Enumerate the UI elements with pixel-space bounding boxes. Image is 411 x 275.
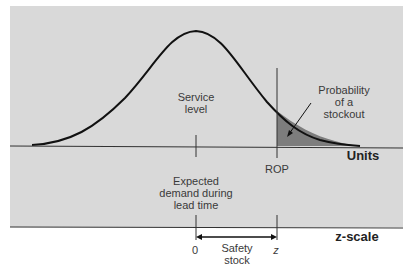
stockout-line3: stockout	[316, 108, 372, 120]
expected-demand-label: Expected demand during lead time	[158, 175, 234, 211]
service-level-label: Service level	[173, 91, 219, 115]
units-axis-label: Units	[343, 150, 383, 162]
safety-arrowhead-right	[271, 234, 277, 240]
safety-stock-diagram: Service level Probability of a stockout …	[0, 0, 411, 275]
expected-line1: Expected	[158, 175, 234, 187]
safety-line1: Safety	[216, 242, 258, 254]
service-level-line1: Service	[173, 91, 219, 103]
z-scale-axis-label: z-scale	[334, 231, 380, 243]
safety-arrowhead-left	[196, 234, 202, 240]
stockout-line2: of a	[316, 96, 372, 108]
expected-line3: lead time	[158, 199, 234, 211]
safety-line2: stock	[216, 254, 258, 266]
z-zero-label: 0	[189, 244, 201, 256]
z-scale-axis-line	[10, 227, 403, 228]
safety-stock-label: Safety stock	[216, 242, 258, 266]
stockout-line1: Probability	[316, 84, 372, 96]
stockout-probability-label: Probability of a stockout	[316, 84, 372, 120]
z-value-label: z	[270, 244, 282, 256]
service-level-line2: level	[173, 103, 219, 115]
rop-label: ROP	[262, 163, 292, 175]
expected-line2: demand during	[158, 187, 234, 199]
